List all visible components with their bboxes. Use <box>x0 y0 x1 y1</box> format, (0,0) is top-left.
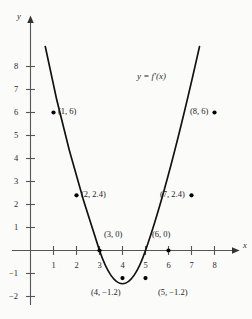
y-tick-label-7: 7 <box>10 85 22 94</box>
x-tick-label-6: 6 <box>162 261 175 270</box>
x-tick-label-2: 2 <box>70 261 83 270</box>
point-label-3-0: (3, 0) <box>104 230 122 239</box>
x-tick-label-8: 8 <box>208 261 221 270</box>
x-tick-label-7: 7 <box>185 261 198 270</box>
x-axis-label: x <box>243 241 247 250</box>
y-tick-label-neg1: −1 <box>5 269 22 278</box>
marker-8-6 <box>212 110 216 114</box>
y-tick-label-6: 6 <box>10 108 22 117</box>
x-tick-label-4: 4 <box>116 261 129 270</box>
x-tick-label-3: 3 <box>93 261 106 270</box>
x-tick-label-1: 1 <box>47 261 60 270</box>
marker-4-n1.2 <box>120 276 124 280</box>
point-label-2-2.4: (2, 2.4) <box>81 190 106 199</box>
point-label-6-0: (6, 0) <box>152 230 170 239</box>
point-label-7-2.4: (7, 2.4) <box>160 190 185 199</box>
y-tick-label-8: 8 <box>10 62 22 71</box>
curve-equation-label: y = f′(x) <box>137 72 166 81</box>
marker-6-0 <box>166 248 170 252</box>
plot-area <box>0 0 252 319</box>
y-tick-label-3: 3 <box>10 177 22 186</box>
marker-2-2.4 <box>74 193 78 197</box>
marker-3-0 <box>97 248 101 252</box>
point-label-5-n1.2: (5, −1.2) <box>158 288 188 297</box>
marker-1-6 <box>51 110 55 114</box>
marker-7-2.4 <box>189 193 193 197</box>
point-label-1-6: (1, 6) <box>58 107 76 116</box>
figure-container: y x 8 7 6 5 4 3 2 1 −1 −2 1 2 3 4 5 6 7 … <box>0 0 252 319</box>
y-tick-label-2: 2 <box>10 200 22 209</box>
y-tick-label-neg2: −2 <box>5 292 22 301</box>
marker-5-n1.2 <box>143 276 147 280</box>
y-tick-label-1: 1 <box>10 223 22 232</box>
point-label-8-6: (8, 6) <box>190 107 208 116</box>
y-tick-label-5: 5 <box>10 131 22 140</box>
y-tick-label-4: 4 <box>10 154 22 163</box>
y-axis-label: y <box>17 12 21 21</box>
point-label-4-n1.2: (4, −1.2) <box>91 288 121 297</box>
x-tick-label-5: 5 <box>139 261 152 270</box>
